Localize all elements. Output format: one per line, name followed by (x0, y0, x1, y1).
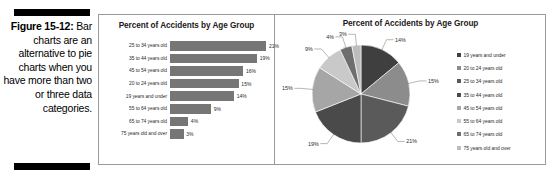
legend-swatch (457, 93, 461, 97)
legend-item: 45 to 54 years old (457, 101, 545, 114)
legend-label: 35 to 44 years old (464, 92, 503, 98)
pie-value-label: 4% (326, 34, 334, 40)
bar-category-label: 35 to 44 years old (98, 56, 170, 61)
legend-swatch (457, 119, 461, 123)
bar-value-label: 16% (246, 68, 256, 74)
figure-number-label: Figure 15-12: (11, 20, 74, 32)
bar-track: 4% (170, 116, 275, 128)
bar-category-label: 19 years and under (98, 94, 170, 99)
bar-chart-title: Percent of Accidents by Age Group (98, 21, 275, 30)
legend-item: 25 to 34 years old (457, 75, 545, 88)
pie-value-label: 9% (305, 46, 313, 52)
legend-item: 55 to 64 years old (457, 114, 545, 127)
legend-swatch (457, 53, 461, 57)
bar-track: 16% (170, 65, 275, 77)
bar-chart-panel: Percent of Accidents by Age Group 25 to … (98, 14, 275, 165)
bar-row: 35 to 44 years old19% (98, 53, 275, 65)
legend-label: 25 to 34 years old (464, 78, 503, 84)
legend-item: 20 to 24 years old (457, 61, 545, 74)
pie-leader-line (348, 34, 356, 46)
pie-value-label: 15% (282, 85, 293, 91)
bar-track: 14% (170, 90, 275, 102)
bar-fill (170, 79, 239, 89)
pie-value-label: 19% (308, 141, 319, 147)
legend-label: 20 to 24 years old (464, 65, 503, 71)
pie-leader-line (408, 81, 427, 84)
legend-label: 19 years and under (464, 52, 506, 58)
legend-label: 55 to 64 years old (464, 118, 503, 124)
figure-caption-column: Figure 15-12: Bar charts are an alternat… (0, 0, 96, 179)
pie-leader-line (314, 49, 329, 58)
bar-fill (170, 91, 234, 101)
bar-fill (170, 129, 184, 139)
legend-label: 75 years old and over (464, 145, 511, 151)
legend-item: 35 to 44 years old (457, 88, 545, 101)
caption-top-rule (14, 9, 90, 16)
bar-fill (170, 66, 243, 76)
bar-value-label: 4% (191, 118, 198, 124)
pie-leader-line (390, 132, 404, 141)
pie-leader-line (320, 134, 334, 144)
legend-item: 65 to 74 years old (457, 128, 545, 141)
pie-leader-line (335, 37, 346, 48)
bar-value-label: 9% (214, 106, 221, 112)
bar-row: 65 to 74 years old4% (98, 116, 275, 128)
legend-label: 65 to 74 years old (464, 131, 503, 137)
bar-row: 45 to 54 years old16% (98, 65, 275, 77)
pie-chart-title: Percent of Accidents by Age Group (275, 19, 546, 28)
bar-chart-plot: 25 to 34 years old21%35 to 44 years old1… (98, 40, 275, 138)
bar-fill (170, 104, 211, 114)
legend-swatch (457, 79, 461, 83)
pie-value-label: 3% (339, 31, 347, 37)
pie-value-label: 15% (428, 78, 439, 84)
bar-category-label: 20 to 24 years old (98, 81, 170, 86)
bar-category-label: 75 years old and over (98, 131, 170, 136)
pie-value-label: 21% (406, 138, 417, 144)
bar-track: 3% (170, 128, 275, 140)
legend-item: 75 years old and over (457, 141, 545, 154)
bar-track: 19% (170, 53, 275, 65)
legend-item: 19 years and under (457, 48, 545, 61)
caption-bottom-rule (14, 163, 90, 170)
bar-category-label: 45 to 54 years old (98, 68, 170, 73)
pie-value-label: 14% (395, 37, 406, 43)
legend-swatch (457, 66, 461, 70)
bar-category-label: 25 to 34 years old (98, 43, 170, 48)
pie-leader-line (381, 40, 393, 51)
figure-screenshot: Figure 15-12: Bar charts are an alternat… (0, 0, 552, 179)
bar-fill (170, 41, 266, 51)
bar-category-label: 65 to 74 years old (98, 119, 170, 124)
bar-row: 55 to 64 years old9% (98, 103, 275, 115)
legend-swatch (457, 132, 461, 136)
bar-row: 25 to 34 years old21% (98, 40, 275, 52)
bar-category-label: 55 to 64 years old (98, 106, 170, 111)
pie-leader-line (294, 88, 313, 89)
bar-track: 9% (170, 103, 275, 115)
bar-row: 19 years and under14% (98, 90, 275, 102)
caption-body: Bar charts are an alternative to pie cha… (3, 20, 92, 114)
bar-value-label: 19% (260, 55, 270, 61)
bar-value-label: 15% (241, 81, 251, 87)
legend-swatch (457, 106, 461, 110)
pie-chart-panel: Percent of Accidents by Age Group 14%15%… (275, 14, 546, 165)
bar-fill (170, 54, 257, 64)
bar-row: 75 years old and over3% (98, 128, 275, 140)
bar-value-label: 14% (237, 93, 247, 99)
bar-row: 20 to 24 years old15% (98, 78, 275, 90)
bar-fill (170, 117, 188, 127)
pie-chart-graphic: 14%15%21%19%15%9%4%3% (279, 30, 459, 158)
bar-track: 21% (170, 40, 275, 52)
bar-value-label: 3% (186, 131, 193, 137)
legend-swatch (457, 146, 461, 150)
legend-label: 45 to 54 years old (464, 105, 503, 111)
caption-text: Figure 15-12: Bar charts are an alternat… (2, 20, 92, 115)
bar-track: 15% (170, 78, 275, 90)
pie-chart-legend: 19 years and under20 to 24 years old25 t… (457, 48, 545, 154)
